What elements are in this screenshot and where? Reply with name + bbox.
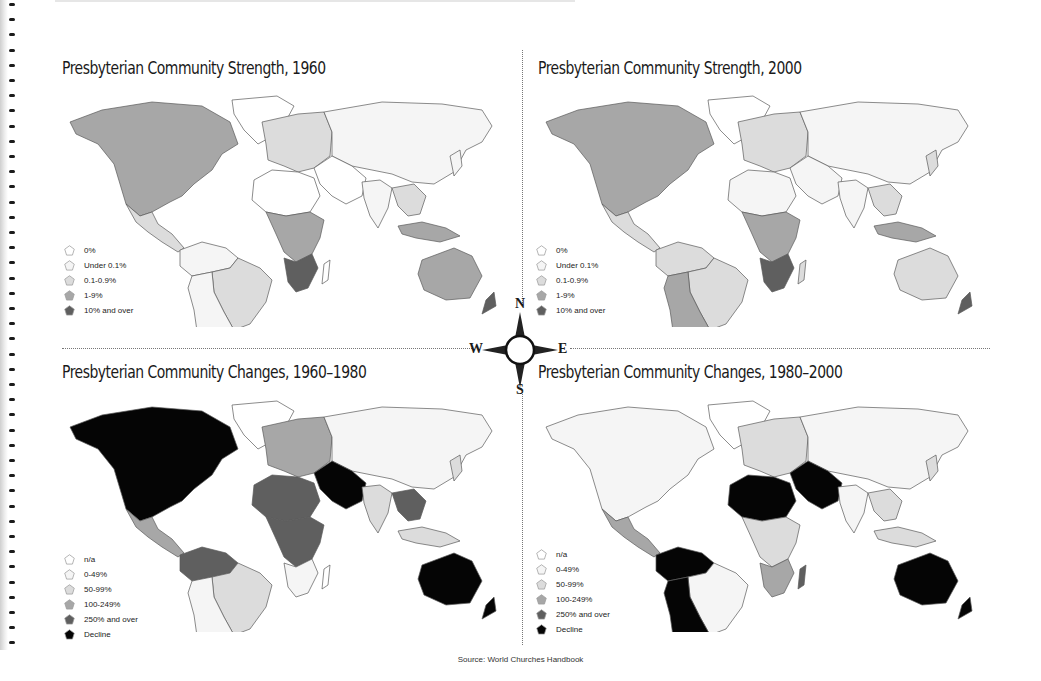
legend-swatch-icon bbox=[64, 614, 75, 625]
binding-hole bbox=[9, 33, 15, 36]
region-north-africa bbox=[728, 475, 796, 521]
map-title-changes-1980-2000: Presbyterian Community Changes, 1980–200… bbox=[538, 362, 842, 382]
legend-swatch-icon bbox=[536, 564, 547, 575]
legend-label: 0.1-0.9% bbox=[556, 276, 588, 285]
legend-label: 50-99% bbox=[84, 585, 112, 594]
legend-swatch-icon bbox=[536, 549, 547, 560]
region-central-africa bbox=[742, 212, 800, 262]
legend-label: 0.1-0.9% bbox=[84, 276, 116, 285]
horizontal-divider-right bbox=[570, 348, 990, 349]
legend-item: 0.1-0.9% bbox=[64, 273, 133, 288]
legend-changes-1980-2000: n/a0-49%50-99%100-249%250% and overDecli… bbox=[536, 547, 610, 637]
binding-hole bbox=[9, 565, 15, 568]
region-north-america bbox=[70, 407, 238, 521]
binding-hole bbox=[9, 368, 15, 371]
binding-hole bbox=[9, 337, 15, 340]
legend-label: n/a bbox=[84, 555, 95, 564]
legend-item: 1-9% bbox=[64, 288, 133, 303]
region-north-africa bbox=[252, 475, 320, 521]
region-india bbox=[838, 180, 868, 228]
legend-item: 0-49% bbox=[64, 567, 138, 582]
legend-swatch-icon bbox=[536, 609, 547, 620]
legend-swatch-icon bbox=[64, 554, 75, 565]
region-southeast-asia bbox=[868, 184, 902, 216]
vertical-divider-bottom bbox=[522, 390, 523, 645]
binding-hole bbox=[9, 429, 15, 432]
binding-hole bbox=[9, 581, 15, 584]
legend-item: 0-49% bbox=[536, 562, 610, 577]
legend-label: 0% bbox=[556, 246, 568, 255]
legend-label: 50-99% bbox=[556, 580, 584, 589]
region-india bbox=[362, 485, 392, 533]
region-australia bbox=[894, 248, 958, 300]
legend-item: 0% bbox=[536, 243, 605, 258]
region-new-zealand bbox=[482, 597, 496, 619]
region-madagascar bbox=[798, 565, 806, 589]
legend-label: 1-9% bbox=[556, 291, 575, 300]
compass-east-label: E bbox=[558, 341, 567, 357]
legend-item: Decline bbox=[64, 627, 138, 642]
legend-label: 0-49% bbox=[556, 565, 579, 574]
binding-hole bbox=[9, 292, 15, 295]
legend-item: n/a bbox=[64, 552, 138, 567]
binding-hole bbox=[9, 611, 15, 614]
legend-label: 250% and over bbox=[556, 610, 610, 619]
binding-hole bbox=[9, 94, 15, 97]
binding-hole bbox=[9, 535, 15, 538]
legend-swatch-icon bbox=[64, 305, 75, 316]
legend-swatch-icon bbox=[64, 245, 75, 256]
map-title-changes-1960-1980: Presbyterian Community Changes, 1960–198… bbox=[62, 362, 366, 382]
map-title-strength-1960: Presbyterian Community Strength, 1960 bbox=[62, 58, 326, 78]
region-australia bbox=[418, 248, 482, 300]
binding-hole bbox=[9, 3, 15, 6]
binding-hole bbox=[9, 18, 15, 21]
legend-item: 50-99% bbox=[536, 577, 610, 592]
binding-hole bbox=[9, 64, 15, 67]
binding-hole bbox=[9, 216, 15, 219]
legend-item: Under 0.1% bbox=[64, 258, 133, 273]
legend-item: 250% and over bbox=[64, 612, 138, 627]
binding-hole bbox=[9, 383, 15, 386]
binding-hole bbox=[9, 261, 15, 264]
binding-hole bbox=[9, 641, 15, 644]
region-north-africa bbox=[252, 170, 320, 216]
binding-hole bbox=[9, 49, 15, 52]
region-southern-africa bbox=[284, 559, 318, 597]
binding-hole bbox=[9, 322, 15, 325]
page-top-edge bbox=[55, 0, 575, 2]
legend-swatch-icon bbox=[64, 584, 75, 595]
region-southeast-asia bbox=[392, 489, 426, 521]
legend-strength-1960: 0%Under 0.1%0.1-0.9%1-9%10% and over bbox=[64, 243, 133, 318]
region-india bbox=[838, 485, 868, 533]
binding-hole bbox=[9, 520, 15, 523]
binding-hole bbox=[9, 185, 15, 188]
legend-item: 0.1-0.9% bbox=[536, 273, 605, 288]
region-indonesia bbox=[398, 222, 460, 242]
binding-hole bbox=[9, 170, 15, 173]
binding-hole bbox=[9, 444, 15, 447]
legend-item: Under 0.1% bbox=[536, 258, 605, 273]
region-central-africa bbox=[266, 212, 324, 262]
binding-hole bbox=[9, 246, 15, 249]
legend-changes-1960-1980: n/a0-49%50-99%100-249%250% and overDecli… bbox=[64, 552, 138, 642]
legend-swatch-icon bbox=[536, 624, 547, 635]
binding-hole bbox=[9, 307, 15, 310]
binding-hole bbox=[9, 459, 15, 462]
legend-item: 100-249% bbox=[64, 597, 138, 612]
legend-item: 250% and over bbox=[536, 607, 610, 622]
binding-hole bbox=[9, 155, 15, 158]
legend-label: 10% and over bbox=[84, 306, 133, 315]
legend-label: Under 0.1% bbox=[556, 261, 598, 270]
binding-hole bbox=[9, 596, 15, 599]
binding-hole bbox=[9, 125, 15, 128]
legend-item: 100-249% bbox=[536, 592, 610, 607]
legend-label: Decline bbox=[84, 630, 111, 639]
region-new-zealand bbox=[958, 597, 972, 619]
legend-item: Decline bbox=[536, 622, 610, 637]
legend-label: 250% and over bbox=[84, 615, 138, 624]
legend-label: Under 0.1% bbox=[84, 261, 126, 270]
binding-hole bbox=[9, 505, 15, 508]
legend-item: 50-99% bbox=[64, 582, 138, 597]
region-southern-africa bbox=[284, 254, 318, 292]
legend-swatch-icon bbox=[536, 245, 547, 256]
